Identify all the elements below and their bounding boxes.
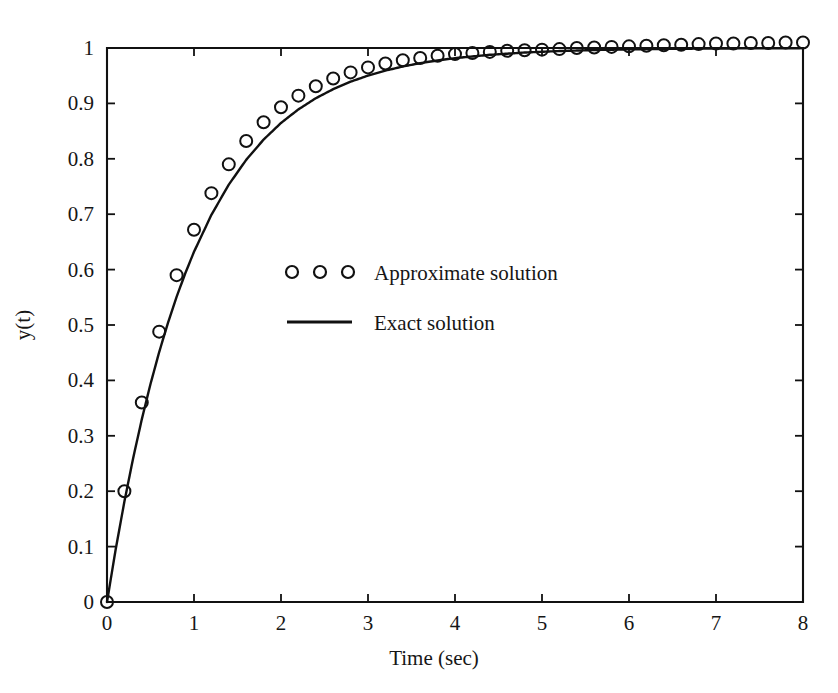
- x-tick-label: 7: [711, 611, 722, 635]
- x-tick-label: 8: [798, 611, 809, 635]
- y-tick-label: 0.5: [68, 313, 94, 337]
- y-tick-label: 0.9: [68, 91, 94, 115]
- x-tick-label: 2: [276, 611, 287, 635]
- y-tick-label: 0.3: [68, 424, 94, 448]
- step-response-plot: 012345678 00.10.20.30.40.50.60.70.80.91 …: [0, 0, 838, 693]
- y-tick-label: 0: [84, 590, 95, 614]
- y-tick-label: 0.4: [68, 368, 95, 392]
- x-tick-label: 5: [537, 611, 548, 635]
- x-tick-label: 3: [363, 611, 374, 635]
- y-tick-label: 0.1: [68, 535, 94, 559]
- x-tick-label: 6: [624, 611, 635, 635]
- y-tick-label: 0.6: [68, 258, 94, 282]
- x-tick-label: 0: [102, 611, 113, 635]
- y-tick-label: 0.8: [68, 147, 94, 171]
- x-axis-title: Time (sec): [389, 646, 479, 670]
- x-tick-label: 4: [450, 611, 461, 635]
- legend-label-exact: Exact solution: [374, 311, 495, 335]
- y-tick-label: 0.7: [68, 202, 94, 226]
- y-tick-label: 0.2: [68, 479, 94, 503]
- plot-background: [0, 0, 838, 693]
- y-axis-title: y(t): [11, 310, 35, 340]
- chart-page: 012345678 00.10.20.30.40.50.60.70.80.91 …: [0, 0, 838, 693]
- y-tick-label: 1: [84, 36, 95, 60]
- x-tick-label: 1: [189, 611, 200, 635]
- legend-label-approximate: Approximate solution: [374, 261, 558, 285]
